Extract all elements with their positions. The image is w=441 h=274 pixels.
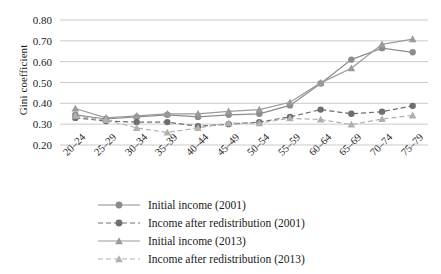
data-point-circle-marker bbox=[348, 111, 354, 117]
legend-label: Income after redistribution (2001) bbox=[142, 217, 305, 229]
legend-circle-marker-icon bbox=[96, 198, 142, 212]
y-axis-tick-label: 0.50 bbox=[18, 78, 52, 88]
y-axis-tick-label: 0.70 bbox=[18, 36, 52, 46]
series-line bbox=[75, 48, 412, 119]
legend-label: Initial income (2001) bbox=[142, 199, 246, 211]
y-axis-tick-label: 0.40 bbox=[18, 98, 52, 108]
legend-circle-marker-icon bbox=[96, 216, 142, 230]
data-point-circle-marker bbox=[409, 49, 415, 55]
data-point-triangle-marker bbox=[409, 112, 417, 119]
legend-item[interactable]: Initial income (2001) bbox=[96, 196, 396, 214]
y-axis-tick-label: 0.80 bbox=[18, 15, 52, 25]
data-point-circle-marker bbox=[348, 56, 354, 62]
y-axis-tick-label: 0.20 bbox=[18, 140, 52, 150]
legend-triangle-marker-icon bbox=[96, 234, 142, 248]
data-point-triangle-marker bbox=[409, 35, 417, 42]
data-point-circle-marker bbox=[379, 108, 385, 114]
data-point-triangle-marker bbox=[286, 98, 294, 105]
legend-item[interactable]: Initial income (2013) bbox=[96, 232, 396, 250]
data-point-circle-marker bbox=[317, 106, 323, 112]
data-point-circle-marker bbox=[409, 103, 415, 109]
data-point-triangle-marker bbox=[317, 116, 325, 123]
legend-label: Income after redistribution (2013) bbox=[142, 253, 305, 265]
series-line bbox=[75, 39, 412, 118]
gini-coefficient-line-chart: Gini coefficient 0.800.700.600.500.400.3… bbox=[0, 0, 441, 274]
y-axis-tick-label: 0.30 bbox=[18, 119, 52, 129]
legend-item[interactable]: Income after redistribution (2001) bbox=[96, 214, 396, 232]
legend-item[interactable]: Income after redistribution (2013) bbox=[96, 250, 396, 268]
y-axis-tick-label: 0.60 bbox=[18, 57, 52, 67]
legend-triangle-marker-icon bbox=[96, 252, 142, 266]
data-point-circle-marker bbox=[164, 119, 170, 125]
legend: Initial income (2001)Income after redist… bbox=[96, 196, 396, 268]
data-point-triangle-marker bbox=[72, 105, 80, 112]
legend-label: Initial income (2013) bbox=[142, 235, 246, 247]
